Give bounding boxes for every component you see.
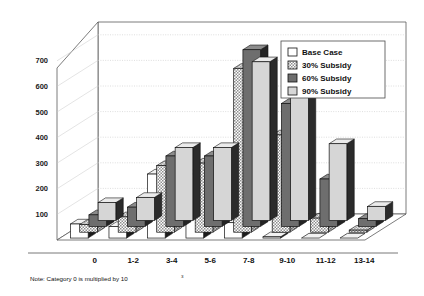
bar-side-face — [347, 139, 354, 220]
legend[interactable]: Base Case30% Subsidy60% Subsidy90% Subsi… — [281, 41, 385, 98]
bar-front-face — [137, 197, 155, 220]
bar-side-face — [231, 143, 238, 221]
x-category-label: 3-4 — [166, 256, 178, 265]
legend-swatch — [288, 87, 297, 95]
y-tick-label: 700 — [35, 56, 48, 65]
bar — [137, 193, 162, 221]
y-tick-label: 400 — [35, 133, 48, 142]
x-category-label: 0 — [92, 256, 97, 265]
bar-front-face — [349, 230, 367, 232]
legend-swatch — [288, 61, 297, 69]
y-tick-label: 200 — [35, 184, 48, 193]
bar-front-face — [368, 206, 386, 220]
grouped-3d-bar-chart: 100200300400500600700 01-23-45-67-89-101… — [0, 0, 424, 296]
bar — [214, 143, 239, 221]
legend-label: 90% Subsidy — [302, 87, 352, 96]
bar — [368, 202, 393, 221]
x-category-label: 13-14 — [354, 256, 375, 265]
bar-front-face — [329, 144, 347, 221]
legend-swatch — [288, 48, 297, 56]
y-tick-label: 500 — [35, 108, 48, 117]
x-category-label: 9-10 — [279, 256, 296, 265]
legend-label: 60% Subsidy — [302, 74, 352, 83]
x-category-label: 1-2 — [127, 256, 139, 265]
legend-label: 30% Subsidy — [302, 61, 352, 70]
bar-front-face — [175, 148, 193, 221]
bar-side-face — [193, 143, 200, 221]
bar-front-face — [252, 62, 270, 221]
bar-side-face — [270, 57, 277, 220]
x-category-label: 11-12 — [316, 256, 337, 265]
bar-front-face — [263, 237, 281, 238]
bar-front-face — [214, 148, 232, 221]
bar — [175, 143, 200, 221]
x-category-label: 5-6 — [204, 256, 216, 265]
bar — [98, 198, 123, 221]
bar — [252, 57, 277, 220]
x-category-label: 7-8 — [243, 256, 255, 265]
y-tick-label: 100 — [35, 210, 48, 219]
y-tick-label: 300 — [35, 159, 48, 168]
legend-swatch — [288, 74, 297, 82]
legend-label: Base Case — [302, 48, 343, 57]
footnote-text: Note: Category 0 is multiplied by 10 — [30, 275, 128, 282]
y-tick-label: 600 — [35, 82, 48, 91]
bar-front-face — [98, 203, 116, 221]
chart-container: 100200300400500600700 01-23-45-67-89-101… — [0, 0, 424, 296]
bar — [329, 139, 354, 220]
